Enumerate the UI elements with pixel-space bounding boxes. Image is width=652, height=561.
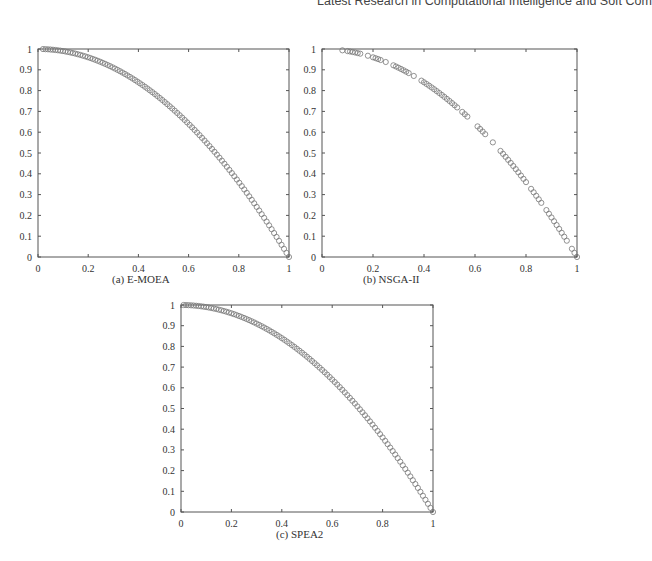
x-tick-label: 0.6 [326,518,339,529]
y-tick-label: 0.7 [163,362,176,373]
x-tick-label: 0.2 [225,518,238,529]
y-tick-label: 0.6 [163,382,176,393]
data-points [181,302,436,514]
y-tick-label: 0.4 [163,424,176,435]
y-tick-label: 0.9 [163,320,176,331]
y-tick-label: 0.3 [163,444,176,455]
x-tick-label: 1 [431,518,436,529]
x-tick-label: 0 [179,518,184,529]
y-tick-label: 0.2 [163,465,176,476]
y-tick-label: 0.5 [163,403,176,414]
y-tick-label: 0.8 [163,341,176,352]
y-tick-label: 1 [170,300,175,311]
y-tick-label: 0.1 [163,486,176,497]
x-tick-label: 0.8 [376,518,389,529]
y-tick-label: 0 [170,507,175,518]
caption-spea2: (c) SPEA2 [276,528,323,540]
plot-frame [181,305,433,512]
